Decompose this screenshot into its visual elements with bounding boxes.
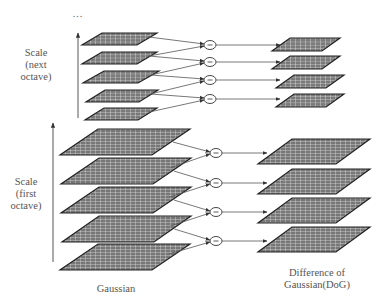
scale-first-octave-label: Scale (first octave) [6, 176, 46, 212]
arrow [151, 75, 204, 79]
scale-next-octave-label: Scale (next octave) [6, 47, 66, 83]
dog-layer [272, 38, 340, 51]
arrow [174, 229, 210, 240]
dog-layer [258, 139, 370, 164]
gaussian-layer [60, 129, 190, 155]
arrow [173, 142, 210, 152]
dog-layer [258, 227, 370, 252]
label-line: (first [6, 188, 46, 200]
gaussian-layer [61, 187, 191, 213]
gaussian-layer [82, 52, 157, 64]
gaussian-layer [83, 71, 159, 83]
label-line: Scale [6, 47, 66, 59]
ellipsis-more-octaves: ... [68, 8, 88, 20]
dog-layer [276, 75, 344, 88]
label-line: octave) [6, 71, 66, 83]
arrow [149, 37, 204, 44]
gaussian-layer [82, 33, 157, 45]
dog-label: Difference of Gaussian(DoG) [262, 267, 372, 291]
arrow [174, 200, 210, 211]
arrow [150, 81, 204, 94]
arrow [149, 46, 204, 56]
label-line: Gaussian(DoG) [262, 279, 372, 291]
dog-layer [276, 94, 344, 107]
gaussian-layer [62, 216, 191, 242]
label-line: Scale [6, 176, 46, 188]
dog-layer [258, 198, 370, 223]
gaussian-label: Gaussian [76, 283, 156, 295]
gaussian-layer [61, 158, 191, 184]
label-line: octave) [6, 200, 46, 212]
dog-layer [258, 169, 370, 194]
arrow [150, 94, 204, 98]
arrow [149, 100, 204, 112]
arrow [174, 171, 210, 182]
arrow [149, 56, 204, 61]
arrow [151, 63, 204, 75]
dog-layer [272, 56, 340, 69]
label-line: (next [6, 59, 66, 71]
gaussian-layer [85, 108, 157, 120]
label-line: Difference of [262, 267, 372, 279]
gaussian-layer [60, 244, 190, 270]
gaussian-layer [86, 90, 158, 102]
